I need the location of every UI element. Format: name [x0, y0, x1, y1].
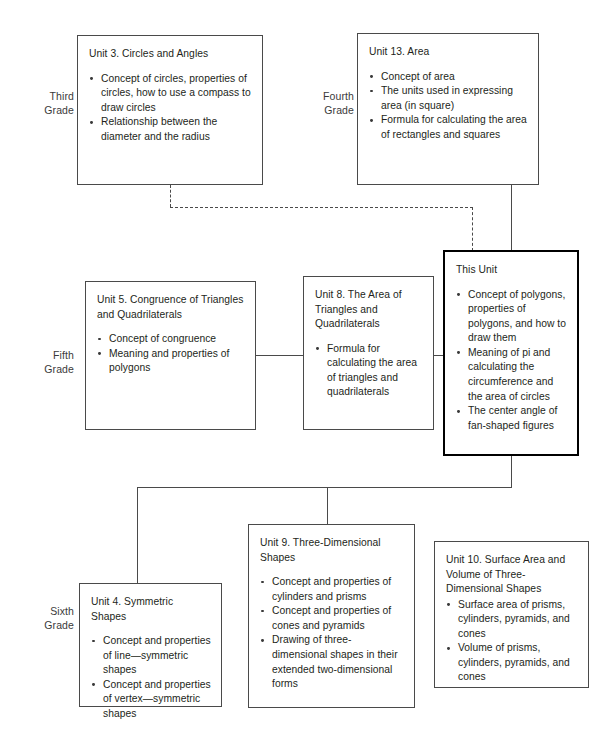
- bullet-text: Concept of polygons, properties of polyg…: [468, 289, 566, 344]
- list-item: Surface area of prisms, cylinders, pyram…: [446, 598, 578, 642]
- unit-title: Unit 8. The Area of Triangles and Quadri…: [315, 288, 423, 332]
- unit-title: Unit 13. Area: [369, 45, 528, 60]
- bullet-dot-icon: [92, 640, 95, 643]
- bullet-dot-icon: [447, 647, 450, 650]
- unit-box-unit5[interactable]: Unit 5. Congruence of Triangles and Quad…: [85, 281, 256, 430]
- bullet-dot-icon: [90, 77, 93, 80]
- bullet-text: Concept of congruence: [109, 333, 216, 344]
- list-item: Concept and properties of cones and pyra…: [260, 604, 404, 633]
- connector-unit5-to-unit8: [256, 355, 303, 356]
- bullet-dot-icon: [261, 610, 264, 613]
- list-item: Volume of prisms, cylinders, pyramids, a…: [446, 641, 578, 685]
- list-item: The center angle of fan-shaped figures: [456, 404, 567, 433]
- title-spacer: [315, 333, 423, 342]
- title-spacer: [91, 625, 211, 634]
- unit-box-this-unit[interactable]: This Unit Concept of polygons, propertie…: [443, 250, 579, 456]
- bullet-dot-icon: [370, 75, 373, 78]
- bullet-dot-icon: [92, 683, 95, 686]
- unit-title: Unit 4. Symmetric Shapes: [91, 595, 211, 624]
- bullet-text: Concept and properties of cones and pyra…: [272, 605, 391, 631]
- bullet-dot-icon: [370, 119, 373, 122]
- unit-title: Unit 5. Congruence of Triangles and Quad…: [97, 293, 245, 322]
- unit-bullet-list: Concept of circles, properties of circle…: [89, 72, 252, 145]
- list-item: Meaning of pi and calculating the circum…: [456, 346, 567, 404]
- list-item: Formula for calculating the area of tria…: [315, 342, 423, 400]
- connector-bottom-bus: [137, 487, 512, 488]
- bullet-text: The center angle of fan-shaped figures: [468, 405, 557, 431]
- bullet-text: Meaning of pi and calculating the circum…: [468, 347, 553, 402]
- unit-box-unit13[interactable]: Unit 13. Area Concept of area The units …: [357, 33, 539, 185]
- unit-box-unit9[interactable]: Unit 9. Three-Dimensional Shapes Concept…: [248, 524, 415, 708]
- bullet-dot-icon: [370, 90, 373, 93]
- list-item: Drawing of three-dimensional shapes in t…: [260, 633, 404, 691]
- bullet-text: Concept and properties of line—symmetric…: [103, 635, 211, 675]
- connector-unit3-stub-dashed: [170, 185, 171, 207]
- unit-bullet-list: Concept of polygons, properties of polyg…: [456, 288, 567, 434]
- unit-bullet-list: Concept of congruence Meaning and proper…: [97, 332, 245, 376]
- bullet-text: The units used in expressing area (in sq…: [381, 85, 513, 111]
- list-item: Formula for calculating the area of rect…: [369, 113, 528, 142]
- list-item: Concept of circles, properties of circle…: [89, 72, 252, 116]
- diagram-canvas: Third Grade Fourth Grade Fifth Grade Six…: [0, 0, 610, 752]
- list-item: Concept and properties of vertex—symmetr…: [91, 678, 211, 722]
- unit-bullet-list: Concept of area The units used in expres…: [369, 70, 528, 143]
- bullet-dot-icon: [457, 351, 460, 354]
- connector-unit3-horizontal-dashed: [170, 207, 473, 208]
- list-item: Meaning and properties of polygons: [97, 347, 245, 376]
- bullet-text: Volume of prisms, cylinders, pyramids, a…: [458, 642, 570, 682]
- title-spacer: [369, 61, 528, 70]
- grade-label-sixth: Sixth Grade: [12, 604, 74, 632]
- bullet-dot-icon: [98, 338, 101, 341]
- bullet-dot-icon: [316, 347, 319, 350]
- bullet-dot-icon: [447, 603, 450, 606]
- bullet-text: Concept of circles, properties of circle…: [101, 73, 251, 113]
- bullet-dot-icon: [90, 121, 93, 124]
- title-spacer: [89, 63, 252, 72]
- unit-bullet-list: Formula for calculating the area of tria…: [315, 342, 423, 400]
- list-item: Concept and properties of line—symmetric…: [91, 634, 211, 678]
- unit-bullet-list: Surface area of prisms, cylinders, pyram…: [446, 598, 578, 686]
- connector-thisunit-drop: [511, 456, 512, 487]
- connector-dashed-to-thisunit: [472, 207, 473, 251]
- unit-box-unit3[interactable]: Unit 3. Circles and Angles Concept of ci…: [77, 35, 263, 185]
- bullet-text: Relationship between the diameter and th…: [101, 116, 217, 142]
- bullet-text: Drawing of three-dimensional shapes in t…: [272, 634, 398, 689]
- title-spacer: [260, 566, 404, 575]
- bullet-text: Concept and properties of cylinders and …: [272, 576, 391, 602]
- list-item: Concept and properties of cylinders and …: [260, 575, 404, 604]
- grade-label-fifth: Fifth Grade: [12, 348, 74, 376]
- bullet-dot-icon: [457, 293, 460, 296]
- bullet-dot-icon: [261, 639, 264, 642]
- title-spacer: [97, 323, 245, 332]
- list-item: The units used in expressing area (in sq…: [369, 84, 528, 113]
- list-item: Relationship between the diameter and th…: [89, 115, 252, 144]
- unit-bullet-list: Concept and properties of cylinders and …: [260, 575, 404, 692]
- connector-unit13-to-thisunit: [511, 185, 512, 251]
- unit-title: Unit 9. Three-Dimensional Shapes: [260, 536, 404, 565]
- list-item: Concept of congruence: [97, 332, 245, 347]
- unit-title: This Unit: [456, 263, 567, 278]
- grade-label-third: Third Grade: [12, 89, 74, 117]
- connector-bus-to-unit4: [137, 487, 138, 583]
- bullet-text: Formula for calculating the area of tria…: [327, 343, 417, 398]
- bullet-text: Formula for calculating the area of rect…: [381, 114, 527, 140]
- unit-bullet-list: Concept and properties of line—symmetric…: [91, 634, 211, 722]
- list-item: Concept of polygons, properties of polyg…: [456, 288, 567, 346]
- bullet-text: Concept of area: [381, 71, 455, 82]
- bullet-text: Concept and properties of vertex—symmetr…: [103, 679, 211, 719]
- unit-box-unit8[interactable]: Unit 8. The Area of Triangles and Quadri…: [303, 276, 434, 430]
- unit-title: Unit 3. Circles and Angles: [89, 47, 252, 62]
- unit-title: Unit 10. Surface Area and Volume of Thre…: [446, 553, 578, 597]
- unit-box-unit4[interactable]: Unit 4. Symmetric Shapes Concept and pro…: [79, 583, 222, 707]
- bullet-dot-icon: [261, 581, 264, 584]
- bullet-text: Surface area of prisms, cylinders, pyram…: [458, 599, 570, 639]
- list-item: Concept of area: [369, 70, 528, 85]
- bullet-dot-icon: [457, 410, 460, 413]
- bullet-text: Meaning and properties of polygons: [109, 348, 229, 374]
- bullet-dot-icon: [98, 352, 101, 355]
- unit-box-unit10[interactable]: Unit 10. Surface Area and Volume of Thre…: [434, 541, 589, 688]
- title-spacer: [456, 279, 567, 288]
- connector-bus-to-unit9: [327, 487, 328, 524]
- grade-label-fourth: Fourth Grade: [292, 89, 354, 117]
